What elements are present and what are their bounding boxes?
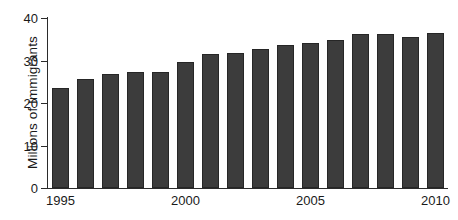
bar (77, 79, 94, 188)
bar (277, 45, 294, 188)
x-axis-ticks: 1995200020052010 (48, 193, 448, 215)
bar (127, 72, 144, 188)
bar (202, 54, 219, 188)
bar (327, 40, 344, 188)
x-axis-tick-label: 2010 (406, 193, 458, 209)
x-axis-tick-label: 2000 (156, 193, 216, 209)
bar (377, 34, 394, 188)
y-axis-tick-mark (41, 103, 48, 104)
y-axis-tick-label: 40 (12, 12, 38, 25)
bar-chart: Millions of Immigrants 010203040 1995200… (0, 0, 458, 220)
y-axis-tick-label: 30 (12, 55, 38, 68)
y-axis-tick-label: 20 (12, 97, 38, 110)
bars-layer (48, 18, 448, 188)
y-axis-tick-mark (41, 146, 48, 147)
y-axis-tick-label: 10 (12, 140, 38, 153)
bar (227, 53, 244, 188)
y-axis-tick-mark (41, 188, 48, 189)
bar (402, 37, 419, 188)
bar (252, 49, 269, 188)
x-axis-tick-label: 1995 (31, 193, 91, 209)
y-axis-tick-mark (41, 61, 48, 62)
bar (427, 33, 444, 188)
x-axis-line (47, 188, 448, 189)
bar (152, 72, 169, 188)
bar (52, 88, 69, 188)
bar (177, 62, 194, 188)
bar (352, 34, 369, 188)
bar (102, 74, 119, 188)
x-axis-tick-label: 2005 (281, 193, 341, 209)
y-axis-tick-mark (41, 18, 48, 19)
bar (302, 43, 319, 188)
